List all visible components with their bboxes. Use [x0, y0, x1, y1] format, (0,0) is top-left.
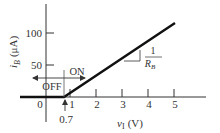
svg-text:iB(μA): iB(μA)	[7, 36, 22, 68]
y-tick-label-50: 50	[31, 59, 43, 71]
threshold-label: 0.7	[59, 113, 73, 125]
on-label: ON	[69, 66, 85, 77]
x-axis-unit: (V)	[128, 117, 144, 130]
x-axis-title: vI(V)	[117, 117, 143, 131]
y-tick-label-100: 100	[26, 27, 43, 39]
slope-numerator: 1	[151, 45, 156, 56]
x-tick-label-3: 3	[120, 98, 126, 110]
y-axis-unit: (μA)	[7, 36, 20, 58]
off-label: OFF	[42, 81, 61, 92]
x-tick-label-2: 2	[94, 98, 100, 110]
x-tick-label-0: 0	[37, 98, 43, 110]
slope-den-sub: B	[151, 63, 156, 71]
x-tick-label-4: 4	[146, 98, 152, 110]
x-axis-sub: I	[122, 122, 125, 131]
slope-den-var: R	[144, 58, 151, 69]
x-tick-label-5: 5	[172, 98, 178, 110]
slope-label: 1 RB	[144, 45, 162, 71]
y-axis-title: iB(μA)	[7, 36, 22, 68]
slope-denominator: RB	[144, 58, 156, 71]
x-tick-label-1: 1	[69, 98, 75, 110]
transfer-characteristic-chart: 100 50 0 1 2 3 4 5 iB(μA) vI(V) OFF ON 0…	[0, 0, 220, 133]
y-axis-sub: B	[13, 60, 22, 65]
